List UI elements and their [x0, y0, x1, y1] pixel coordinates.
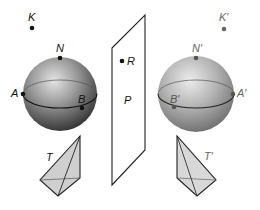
- sphere-original-body: [23, 57, 97, 131]
- pyramid-t: T: [40, 136, 80, 196]
- point-a-dot: [21, 92, 26, 97]
- label-k: K: [28, 11, 36, 23]
- label-n: N: [56, 42, 64, 54]
- label-p: P: [124, 94, 132, 106]
- point-k-prime-dot: [222, 27, 227, 32]
- pyramid-t-prime: T′: [177, 136, 216, 196]
- pyramid-t-outline: [40, 136, 80, 196]
- label-r: R: [127, 55, 135, 67]
- sphere-image: N′ A′ B′: [158, 42, 247, 132]
- label-n-prime: N′: [192, 42, 203, 54]
- label-a-prime: A′: [236, 87, 247, 99]
- label-a: A: [10, 87, 18, 99]
- label-k-prime: K′: [219, 11, 229, 23]
- label-t-prime: T′: [204, 150, 214, 162]
- point-r-dot: [120, 59, 125, 64]
- point-n-dot: [58, 56, 63, 61]
- pyramid-t-prime-outline: [177, 136, 216, 196]
- plane-p: R P: [112, 15, 145, 185]
- point-b-dot: [80, 106, 85, 111]
- label-b: B: [78, 93, 85, 105]
- point-b-prime-dot: [172, 105, 177, 110]
- point-n-prime-dot: [194, 56, 199, 61]
- label-b-prime: B′: [170, 93, 180, 105]
- point-a-prime-dot: [231, 92, 236, 97]
- sphere-original: N A B: [10, 42, 97, 131]
- point-k-prime: K′: [219, 11, 229, 31]
- point-k-dot: [30, 26, 35, 31]
- reflection-diagram: K K′ N A B R P N′ A′ B′: [0, 0, 260, 210]
- point-k: K: [28, 11, 36, 30]
- label-t: T: [46, 151, 54, 163]
